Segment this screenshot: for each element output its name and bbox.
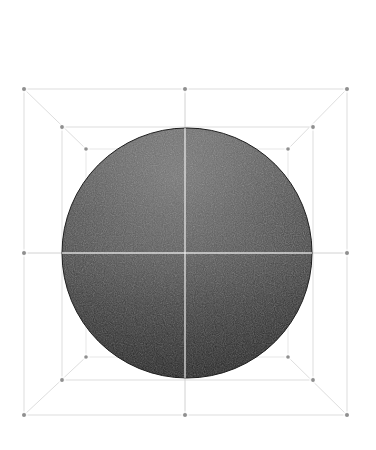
vertex-mid-top-right xyxy=(311,125,315,129)
vertex-inner-top-right xyxy=(286,147,290,151)
vertex-mid-top-left xyxy=(60,125,64,129)
vertex-outer-bottom-center xyxy=(183,413,187,417)
vertex-inner-top-left xyxy=(84,147,88,151)
vertex-inner-bottom-left xyxy=(84,355,88,359)
vertex-outer-right-center xyxy=(345,251,349,255)
vertex-inner-bottom-right xyxy=(286,355,290,359)
figure-canvas xyxy=(0,0,376,450)
vertex-outer-bottom-left xyxy=(22,413,26,417)
vertex-outer-top-right xyxy=(345,87,349,91)
vertex-outer-left-center xyxy=(22,251,26,255)
vertex-outer-bottom-right xyxy=(345,413,349,417)
vertex-mid-bottom-right xyxy=(311,378,315,382)
vertex-outer-top-left xyxy=(22,87,26,91)
sphere-wireframe-diagram xyxy=(0,0,376,450)
vertex-outer-top-center xyxy=(183,87,187,91)
vertex-mid-bottom-left xyxy=(60,378,64,382)
